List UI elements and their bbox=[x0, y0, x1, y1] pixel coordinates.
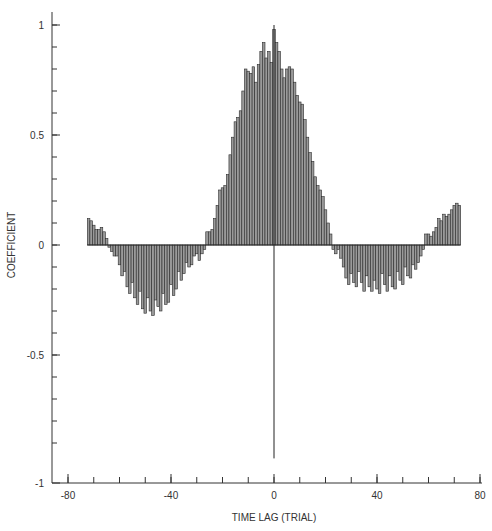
bar bbox=[180, 245, 183, 280]
bar bbox=[316, 186, 319, 245]
bar bbox=[360, 245, 363, 282]
bar bbox=[188, 245, 191, 267]
bar bbox=[401, 245, 404, 285]
bar bbox=[440, 221, 443, 245]
bar bbox=[103, 232, 106, 245]
bar bbox=[141, 245, 144, 309]
bar bbox=[100, 227, 103, 245]
bar bbox=[371, 245, 374, 291]
bar bbox=[193, 245, 196, 256]
bar bbox=[283, 78, 286, 245]
bar bbox=[417, 245, 420, 263]
bar bbox=[443, 214, 446, 245]
bar bbox=[165, 245, 168, 304]
bar bbox=[90, 221, 93, 245]
bar bbox=[185, 245, 188, 263]
bar bbox=[363, 245, 366, 291]
x-axis-title: TIME LAG (TRIAL) bbox=[232, 512, 316, 523]
x-tick-label: -40 bbox=[164, 490, 179, 501]
bar bbox=[242, 91, 245, 245]
bar bbox=[257, 65, 260, 245]
bar bbox=[134, 245, 137, 298]
bar bbox=[309, 153, 312, 245]
bar bbox=[298, 102, 301, 245]
bar bbox=[337, 245, 340, 249]
bar bbox=[129, 245, 132, 293]
bar bbox=[368, 245, 371, 287]
bar bbox=[98, 230, 101, 245]
bar bbox=[221, 188, 224, 245]
bar bbox=[255, 82, 258, 245]
bar bbox=[329, 234, 332, 245]
bar bbox=[322, 197, 325, 245]
bar bbox=[458, 205, 461, 245]
bar bbox=[399, 245, 402, 280]
bar bbox=[206, 232, 209, 245]
bar bbox=[332, 245, 335, 249]
bar bbox=[293, 82, 296, 245]
bar bbox=[450, 210, 453, 245]
bar bbox=[270, 62, 273, 245]
bar bbox=[456, 203, 459, 245]
bar bbox=[250, 73, 253, 245]
bar bbox=[126, 245, 129, 287]
bar bbox=[386, 245, 389, 291]
bar bbox=[211, 230, 214, 245]
y-axis-title: COEFFICIENT bbox=[6, 212, 17, 279]
bar bbox=[162, 245, 165, 293]
bar bbox=[355, 245, 358, 287]
bar bbox=[425, 234, 428, 245]
bar bbox=[203, 245, 206, 249]
bar bbox=[190, 245, 193, 265]
bar bbox=[389, 245, 392, 276]
bar bbox=[95, 230, 98, 245]
bar bbox=[438, 219, 441, 245]
bar bbox=[353, 245, 356, 282]
bar bbox=[167, 245, 170, 302]
y-tick-label: 0 bbox=[38, 240, 44, 251]
bar bbox=[139, 245, 142, 291]
bar bbox=[144, 245, 147, 313]
bar bbox=[237, 117, 240, 245]
bar bbox=[350, 245, 353, 274]
bar bbox=[116, 245, 119, 256]
bar bbox=[262, 43, 265, 245]
bar bbox=[87, 219, 90, 245]
bar bbox=[381, 245, 384, 274]
bar bbox=[342, 245, 345, 267]
bar bbox=[224, 186, 227, 245]
bar bbox=[172, 245, 175, 296]
bar bbox=[247, 71, 250, 245]
bar bbox=[213, 219, 216, 245]
bar bbox=[159, 245, 162, 311]
bar bbox=[448, 214, 451, 245]
bar bbox=[347, 245, 350, 285]
bar bbox=[136, 245, 139, 304]
bar bbox=[252, 67, 255, 245]
bar bbox=[453, 205, 456, 245]
bar bbox=[324, 210, 327, 245]
bar bbox=[311, 161, 314, 245]
bar bbox=[229, 155, 232, 245]
bar bbox=[195, 245, 198, 254]
bar bbox=[113, 245, 116, 256]
bar bbox=[358, 245, 361, 271]
bar bbox=[244, 69, 247, 245]
bar bbox=[376, 245, 379, 289]
cross-correlation-chart: -1-0.500.51-80-4004080 TIME LAG (TRIAL) … bbox=[0, 0, 492, 531]
bar bbox=[335, 245, 338, 254]
y-tick-label: 0.5 bbox=[30, 130, 44, 141]
bar bbox=[345, 245, 348, 278]
x-tick-label: -80 bbox=[61, 490, 76, 501]
bar bbox=[157, 245, 160, 307]
bar bbox=[175, 245, 178, 289]
bar bbox=[219, 190, 222, 245]
bar bbox=[286, 69, 289, 245]
bar bbox=[288, 67, 291, 245]
bar bbox=[378, 245, 381, 293]
bar bbox=[430, 236, 433, 245]
x-tick-label: 80 bbox=[474, 490, 486, 501]
bar bbox=[412, 245, 415, 265]
bar bbox=[121, 245, 124, 276]
bar bbox=[445, 216, 448, 245]
